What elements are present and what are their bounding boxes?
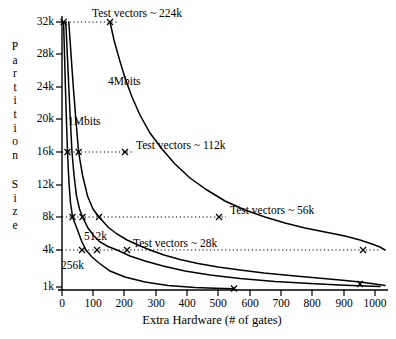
x-axis-title: Extra Hardware (# of gates) — [142, 314, 282, 327]
curve-label-512k: 512k — [84, 231, 107, 243]
curve-512k-line — [66, 22, 380, 287]
y-tick-label-4k: 4k — [28, 244, 54, 256]
y-axis-letter-t: t — [7, 81, 23, 95]
y-tick-label-16k: 16k — [28, 146, 54, 158]
x-tick-label-400: 400 — [178, 298, 195, 310]
y-tick-label-1k: 1k — [28, 281, 54, 293]
y-axis-letter-z: z — [7, 205, 23, 219]
y-axis-letter-e: e — [7, 219, 23, 233]
y-axis-letter-i2: i — [7, 122, 23, 136]
x-tick-marks — [62, 290, 375, 296]
marker-4mbits-8k — [216, 214, 222, 220]
annotation-test-vectors-112k: Test vectors ~ 112k — [136, 140, 226, 152]
curve-label-256k: 256k — [61, 260, 84, 272]
annotation-test-vectors-56k: Test vectors ~ 56k — [230, 205, 314, 217]
x-tick-label-200: 200 — [115, 298, 132, 310]
x-tick-label-500: 500 — [209, 298, 226, 310]
data-point-markers — [61, 19, 366, 292]
marker-1mbits-4k — [124, 247, 130, 253]
chart-figure: 32k 28k 24k 20k 16k 12k 8k 4k 1k 0 100 2… — [0, 0, 396, 339]
y-tick-label-24k: 24k — [28, 81, 54, 93]
y-axis-letter-o: o — [7, 135, 23, 149]
chart-plot-area — [0, 0, 396, 339]
y-axis-letter-t2: t — [7, 108, 23, 122]
y-tick-marks — [56, 22, 62, 287]
marker-512k-4k — [94, 247, 100, 253]
y-axis-letter-n: n — [7, 149, 23, 163]
y-tick-label-28k: 28k — [28, 48, 54, 60]
y-axis-letter-r: r — [7, 67, 23, 81]
curve-label-1mbits: 1Mbits — [68, 116, 101, 128]
x-tick-label-300: 300 — [147, 298, 164, 310]
annotation-test-vectors-28k: Test vectors ~ 28k — [133, 238, 217, 250]
y-axis-letter-i3: i — [7, 192, 23, 206]
x-tick-label-100: 100 — [84, 298, 101, 310]
x-tick-label-1000: 1000 — [364, 298, 387, 310]
x-tick-label-900: 900 — [335, 298, 352, 310]
y-axis-title-partition: Partition P a r t i t i o n — [7, 40, 23, 162]
y-axis-letter-P: P — [7, 40, 23, 54]
y-tick-label-12k: 12k — [28, 179, 54, 191]
x-tick-label-800: 800 — [303, 298, 320, 310]
curve-label-4mbits: 4Mbits — [108, 76, 141, 88]
marker-4mbits-4k — [360, 247, 366, 253]
annotation-test-vectors-224k: Test vectors ~ 224k — [92, 8, 182, 20]
y-axis-letter-a: a — [7, 54, 23, 68]
y-axis-letter-S: S — [7, 178, 23, 192]
curve-1mbits-line — [69, 22, 385, 286]
y-axis-letter-i: i — [7, 94, 23, 108]
y-axis-title-size: Size S i z e — [7, 178, 23, 232]
y-tick-label-32k: 32k — [28, 16, 54, 28]
x-tick-label-600: 600 — [241, 298, 258, 310]
y-tick-label-8k: 8k — [28, 211, 54, 223]
x-tick-label-700: 700 — [272, 298, 289, 310]
marker-256k-4k — [79, 247, 85, 253]
x-tick-label-0: 0 — [59, 298, 65, 310]
y-tick-label-20k: 20k — [28, 113, 54, 125]
